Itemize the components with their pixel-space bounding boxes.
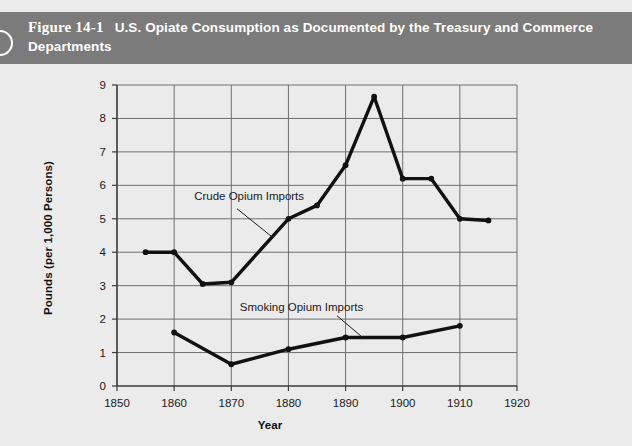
y-tick-label: 3 [100,280,106,292]
data-point-marker [428,176,434,182]
y-tick-label: 0 [100,380,106,392]
y-tick-label: 7 [100,146,106,158]
y-tick-label: 8 [100,112,106,124]
series-label: Crude Opium Imports [194,190,304,202]
x-tick-label: 1890 [333,397,359,409]
data-point-marker [171,330,177,336]
x-tick-label: 1900 [390,397,416,409]
data-point-marker [286,216,292,222]
figure-root: Figure 14-1U.S. Opiate Consumption as Do… [0,0,632,446]
y-tick-label: 6 [100,179,106,191]
data-point-marker [314,203,320,209]
x-tick-label: 1850 [104,397,130,409]
data-series-layer [143,94,492,367]
series-annotations: Crude Opium ImportsSmoking Opium Imports [194,190,364,338]
line-chart-svg: 0123456789185018601870188018901900191019… [0,64,632,446]
data-point-marker [486,218,492,224]
data-point-marker [286,346,292,352]
y-tick-label: 1 [100,347,106,359]
x-tick-label: 1880 [276,397,302,409]
data-point-marker [228,279,234,285]
x-axis-label: Year [0,419,540,431]
chart-container: Pounds (per 1,000 Persons) Year 01234567… [0,64,632,446]
y-tick-label: 9 [100,79,106,91]
data-point-marker [400,176,406,182]
data-point-marker [143,249,149,255]
y-tick-label: 2 [100,313,106,325]
y-tick-label: 4 [100,246,107,258]
y-tick-label: 5 [100,213,106,225]
figure-header-text: Figure 14-1U.S. Opiate Consumption as Do… [28,18,618,56]
data-point-marker [343,335,349,341]
data-point-marker [457,216,463,222]
figure-number: Figure 14-1 [28,19,115,35]
y-axis-label: Pounds (per 1,000 Persons) [42,143,54,333]
data-point-marker [228,361,234,367]
data-point-marker [457,323,463,329]
tick-labels: 0123456789185018601870188018901900191019… [100,79,530,409]
x-tick-label: 1910 [447,397,473,409]
figure-header-band: Figure 14-1U.S. Opiate Consumption as Do… [0,12,632,64]
x-tick-label: 1920 [504,397,530,409]
data-point-marker [400,335,406,341]
data-point-marker [371,94,377,100]
data-point-marker [200,281,206,287]
data-point-marker [171,249,177,255]
series-line [174,326,460,364]
data-point-marker [343,162,349,168]
series-leader-line [237,209,272,237]
gridlines [117,85,517,386]
circle-outline-icon [0,30,13,56]
series-label: Smoking Opium Imports [240,301,364,313]
x-tick-label: 1860 [161,397,187,409]
x-tick-label: 1870 [218,397,244,409]
